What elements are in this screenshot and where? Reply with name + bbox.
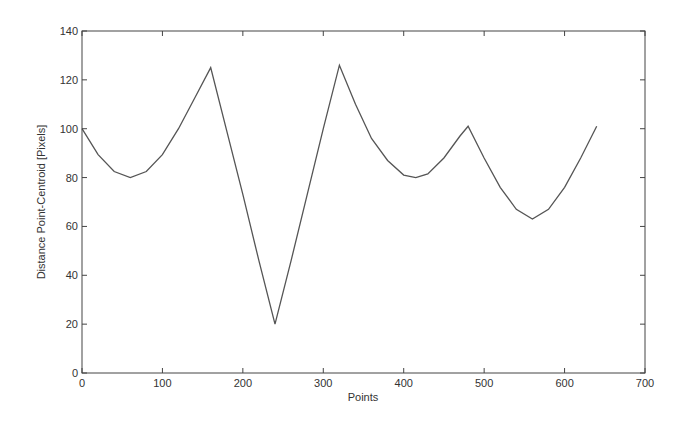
y-tick-label: 140 [60, 25, 78, 37]
y-tick-label: 0 [72, 367, 78, 379]
x-tick-label: 100 [153, 377, 171, 389]
y-tick-label: 120 [60, 74, 78, 86]
x-axis-label: Points [348, 391, 379, 403]
x-tick-label: 500 [475, 377, 493, 389]
x-tick-label: 0 [79, 377, 85, 389]
x-tick-label: 300 [314, 377, 332, 389]
y-tick-label: 60 [66, 220, 78, 232]
y-tick-label: 80 [66, 172, 78, 184]
x-tick-label: 400 [395, 377, 413, 389]
y-axis-label: Distance Point-Centroid [Pixels] [35, 125, 47, 280]
axes-frame [82, 31, 645, 373]
y-tick-label: 100 [60, 123, 78, 135]
line-chart: 0100200300400500600700 02040608010012014… [0, 0, 686, 426]
y-tick-label: 40 [66, 269, 78, 281]
y-axis-ticks: 020406080100120140 [60, 25, 645, 379]
y-tick-label: 20 [66, 318, 78, 330]
x-tick-label: 700 [636, 377, 654, 389]
data-line [82, 65, 597, 324]
x-axis-ticks: 0100200300400500600700 [79, 31, 654, 389]
x-tick-label: 200 [234, 377, 252, 389]
x-tick-label: 600 [555, 377, 573, 389]
